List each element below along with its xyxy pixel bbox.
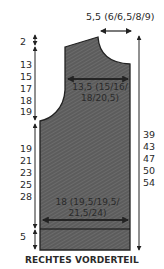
bottom-width-line2: 21,5/24) — [45, 208, 130, 219]
piece-title: RECHTES VORDERTEIL — [0, 255, 164, 265]
body-length-label: 21 — [20, 156, 32, 166]
bottom-width-line1: 18 (19,5/19,5/ — [45, 197, 130, 208]
body-length-label: 25 — [20, 180, 32, 190]
chest-width-label: 13,5 (15/16/ 18/20,5) — [60, 82, 140, 104]
armhole-label: 18 — [20, 96, 32, 106]
rib-height-label: 5 — [20, 232, 32, 242]
total-length-label: 50 — [143, 166, 155, 176]
body-length-label: 23 — [20, 168, 32, 178]
total-length-label: 39 — [143, 130, 155, 140]
total-length-label: 47 — [143, 154, 155, 164]
body-length-label: 19 — [20, 144, 32, 154]
chest-width-line2: 18/20,5) — [60, 93, 140, 104]
total-length-label: 54 — [143, 178, 155, 188]
armhole-label: 19 — [20, 107, 32, 117]
armhole-label: 17 — [20, 84, 32, 94]
total-length-label: 43 — [143, 142, 155, 152]
bottom-width-label: 18 (19,5/19,5/ 21,5/24) — [45, 197, 130, 219]
armhole-label: 15 — [20, 72, 32, 82]
armhole-label: 13 — [20, 60, 32, 70]
shoulder-width-label: 5,5 (6/6,5/8/9) — [86, 12, 154, 22]
body-length-label: 28 — [20, 192, 32, 202]
shoulder-slope-label: 2 — [20, 37, 32, 47]
chest-width-line1: 13,5 (15/16/ — [60, 82, 140, 93]
